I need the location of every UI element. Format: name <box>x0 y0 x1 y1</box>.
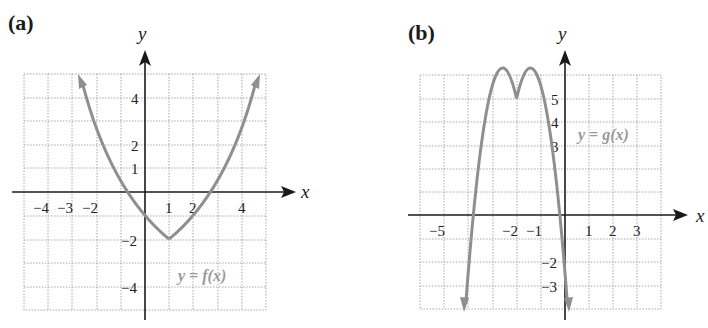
x-tick: −2 <box>82 200 98 216</box>
y-tick: 1 <box>131 161 139 177</box>
y-tick: −2 <box>121 233 137 249</box>
y-tick: 4 <box>131 91 139 107</box>
panel-a: (a) x y −4 −3 −2 <box>8 10 310 320</box>
panel-a-label: (a) <box>8 10 34 35</box>
y-tick: −2 <box>541 255 557 271</box>
x-tick: 1 <box>165 200 173 216</box>
panel-b-x-label: x <box>695 205 705 226</box>
x-tick: 1 <box>585 223 593 239</box>
panel-b-grid <box>420 75 661 309</box>
x-tick: 4 <box>238 200 246 216</box>
panel-a-x-label: x <box>300 181 310 202</box>
curve-arrow-icon <box>78 74 87 89</box>
x-tick: −4 <box>33 200 49 216</box>
curve-arrow-icon <box>251 74 260 89</box>
y-tick: 4 <box>551 115 559 131</box>
panel-b: (b) x y −5 −2 −1 1 2 <box>408 20 705 320</box>
panel-b-y-label: y <box>556 23 567 44</box>
panel-b-label: (b) <box>408 20 435 45</box>
y-tick: 2 <box>131 138 139 154</box>
x-tick: 3 <box>633 223 641 239</box>
x-tick: −5 <box>429 223 445 239</box>
y-tick: 5 <box>551 92 559 108</box>
x-tick: −3 <box>57 200 73 216</box>
x-tick: −2 <box>502 223 518 239</box>
x-tick: −1 <box>526 223 542 239</box>
figure: (a) x y −4 −3 −2 <box>0 0 708 328</box>
x-tick: 2 <box>609 223 617 239</box>
panel-a-y-label: y <box>136 23 147 44</box>
panel-a-function-label: y = f(x) <box>176 267 226 285</box>
y-tick: −4 <box>121 280 137 296</box>
y-tick: −3 <box>541 279 557 295</box>
panel-b-function-label: y = g(x) <box>576 126 629 144</box>
